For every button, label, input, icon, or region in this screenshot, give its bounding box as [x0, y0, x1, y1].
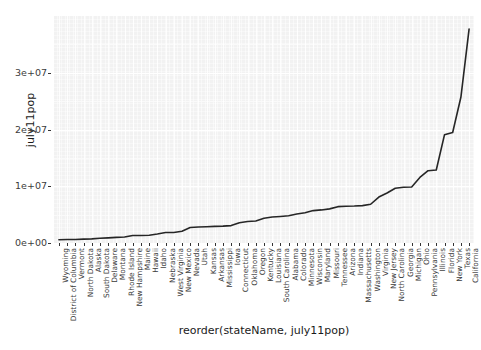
x-tick-mark	[420, 243, 421, 246]
x-tick-mark	[125, 243, 126, 246]
x-tick-mark	[338, 243, 339, 246]
y-axis-ticks: 0e+001e+072e+073e+07	[0, 0, 47, 350]
x-tick-mark	[321, 243, 322, 246]
x-tick-mark	[190, 243, 191, 246]
y-tick-mark	[48, 243, 51, 244]
y-tick-mark	[48, 186, 51, 187]
x-tick-mark	[445, 243, 446, 246]
y-tick-label: 0e+00	[3, 238, 47, 248]
x-tick-mark	[297, 243, 298, 246]
x-tick-mark	[428, 243, 429, 246]
y-tick-mark	[48, 130, 51, 131]
x-tick-mark	[436, 243, 437, 246]
x-tick-mark	[231, 243, 232, 246]
x-tick-mark	[182, 243, 183, 246]
x-tick-mark	[305, 243, 306, 246]
x-tick-mark	[362, 243, 363, 246]
x-tick-mark	[313, 243, 314, 246]
x-tick-mark	[412, 243, 413, 246]
x-tick-mark	[248, 243, 249, 246]
x-tick-mark	[371, 243, 372, 246]
x-tick-mark	[215, 243, 216, 246]
y-tick-mark	[48, 73, 51, 74]
x-tick-mark	[354, 243, 355, 246]
x-tick-mark	[67, 243, 68, 246]
chart-container: july11pop 0e+001e+072e+073e+07 WyomingDi…	[0, 0, 481, 350]
x-tick-mark	[133, 243, 134, 246]
x-tick-mark	[92, 243, 93, 246]
data-line-series	[54, 16, 474, 243]
x-tick-mark	[461, 243, 462, 246]
x-tick-mark	[207, 243, 208, 246]
x-tick-mark	[395, 243, 396, 246]
x-tick-mark	[469, 243, 470, 246]
x-tick-mark	[346, 243, 347, 246]
x-axis: WyomingDistrict of ColumbiaVermontNorth …	[54, 243, 474, 323]
x-tick-mark	[108, 243, 109, 246]
x-tick-mark	[84, 243, 85, 246]
x-tick-mark	[280, 243, 281, 246]
x-tick-mark	[330, 243, 331, 246]
x-tick-label: California	[472, 248, 480, 283]
y-tick-label: 2e+07	[3, 125, 47, 135]
x-tick-mark	[198, 243, 199, 246]
y-tick-label: 3e+07	[3, 68, 47, 78]
x-tick-mark	[100, 243, 101, 246]
x-tick-mark	[289, 243, 290, 246]
x-tick-mark	[272, 243, 273, 246]
plot-panel	[54, 16, 474, 243]
y-tick-label: 1e+07	[3, 181, 47, 191]
x-tick-mark	[264, 243, 265, 246]
x-tick-mark	[116, 243, 117, 246]
x-tick-mark	[141, 243, 142, 246]
x-tick-mark	[453, 243, 454, 246]
x-tick-mark	[174, 243, 175, 246]
x-axis-title: reorder(stateName, july11pop)	[54, 324, 474, 337]
x-tick-mark	[166, 243, 167, 246]
x-tick-mark	[157, 243, 158, 246]
x-tick-mark	[149, 243, 150, 246]
x-tick-mark	[239, 243, 240, 246]
x-tick-mark	[256, 243, 257, 246]
x-tick-mark	[404, 243, 405, 246]
x-tick-mark	[223, 243, 224, 246]
population-line	[59, 29, 469, 240]
x-tick-mark	[75, 243, 76, 246]
x-tick-mark	[59, 243, 60, 246]
x-tick-mark	[379, 243, 380, 246]
x-tick-mark	[387, 243, 388, 246]
